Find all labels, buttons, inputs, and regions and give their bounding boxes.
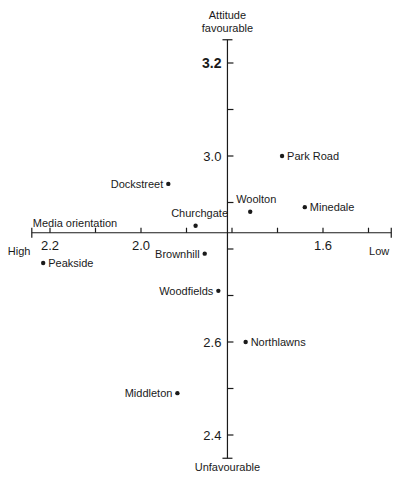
point-label: Woolton — [236, 193, 276, 205]
data-point-woodfields: Woodfields — [159, 285, 220, 297]
point-label: Churchgate — [171, 207, 228, 219]
data-point-brownhill: Brownhill — [155, 248, 207, 260]
data-point-peakside: Peakside — [41, 257, 93, 269]
x-axis-title: Media orientation — [33, 217, 117, 229]
point-label: Minedale — [310, 201, 355, 213]
axis-labels: Media orientationHighLowAttitudefavourab… — [8, 9, 389, 473]
point-marker — [243, 340, 247, 344]
chart-axes — [32, 40, 391, 459]
x-tick-label: 2.2 — [41, 238, 59, 253]
x-axis-high-label: High — [8, 245, 31, 257]
y-tick-label: 2.6 — [203, 335, 221, 350]
data-point-middleton: Middleton — [125, 387, 180, 399]
axis-ticks: 2.22.01.63.23.02.62.4 — [41, 55, 369, 443]
point-label: Woodfields — [159, 285, 214, 297]
point-marker — [280, 154, 284, 158]
data-point-minedale: Minedale — [303, 201, 355, 213]
point-label: Park Road — [287, 150, 339, 162]
data-point-park-road: Park Road — [280, 150, 339, 162]
point-marker — [166, 182, 170, 186]
point-marker — [303, 205, 307, 209]
x-tick-label: 1.6 — [314, 238, 332, 253]
scatter-chart: 2.22.01.63.23.02.62.4 Media orientationH… — [0, 0, 406, 480]
point-marker — [216, 289, 220, 293]
y-tick-label: 3.0 — [203, 149, 221, 164]
point-marker — [203, 251, 207, 255]
y-tick-label: 2.4 — [203, 428, 221, 443]
point-marker — [41, 261, 45, 265]
data-points: Park RoadDockstreetWooltonMinedaleChurch… — [41, 150, 354, 399]
point-label: Peakside — [48, 257, 93, 269]
x-axis-low-label: Low — [369, 245, 389, 257]
y-axis-title-line1: Attitude — [209, 9, 246, 21]
point-label: Northlawns — [251, 336, 307, 348]
point-marker — [193, 224, 197, 228]
data-point-northlawns: Northlawns — [243, 336, 306, 348]
data-point-dockstreet: Dockstreet — [111, 178, 171, 190]
x-tick-label: 2.0 — [132, 238, 150, 253]
y-axis-title-line2: favourable — [202, 22, 253, 34]
point-marker — [248, 210, 252, 214]
point-label: Dockstreet — [111, 178, 164, 190]
data-point-woolton: Woolton — [236, 193, 276, 214]
point-label: Middleton — [125, 387, 173, 399]
y-tick-label: 3.2 — [202, 55, 222, 71]
point-marker — [175, 391, 179, 395]
y-axis-bottom-label: Unfavourable — [195, 461, 260, 473]
data-point-churchgate: Churchgate — [171, 207, 228, 228]
point-label: Brownhill — [155, 248, 200, 260]
